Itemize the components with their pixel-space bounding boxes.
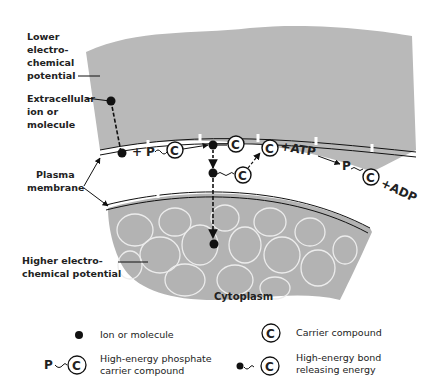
- svg-text:C: C: [366, 171, 375, 185]
- label-higher-potential: Higher electro- chemical potential: [22, 255, 121, 279]
- svg-text:High-energy bond: High-energy bond: [296, 352, 381, 363]
- high-energy-bond-tilde: [155, 150, 167, 154]
- legend-ion-icon: [75, 331, 83, 339]
- label-lower-potential: Lower electro- chemical potential: [27, 31, 78, 81]
- label-cytoplasm: Cytoplasm: [214, 291, 273, 302]
- svg-text:releasing energy: releasing energy: [296, 364, 376, 375]
- plus-adp: +ADP: [379, 176, 420, 205]
- legend: Ion or molecule C Carrier compound P C H…: [44, 324, 382, 376]
- high-energy-bond-release: [217, 173, 234, 176]
- plus-sign: +: [132, 145, 142, 159]
- legend-bond-icon: [237, 363, 244, 370]
- arrow-to-complex: [183, 145, 208, 149]
- legend-phosphate-icon: P: [44, 358, 53, 372]
- label-plasma-membrane: Plasma membrane: [27, 169, 84, 193]
- svg-text:C: C: [170, 144, 179, 158]
- cytoplasm-region: [108, 194, 372, 300]
- svg-text:carrier compound: carrier compound: [100, 365, 184, 376]
- ion-complex: [209, 141, 218, 150]
- arrow-carrier-recycle: [248, 153, 260, 168]
- svg-text:C: C: [265, 142, 274, 156]
- diagram-root: Lower electro- chemical potential Extrac…: [0, 0, 443, 386]
- diagram-canvas: Lower electro- chemical potential Extrac…: [0, 0, 443, 386]
- svg-text:C: C: [266, 327, 275, 341]
- svg-text:Carrier compound: Carrier compound: [296, 327, 382, 338]
- ion-cytoplasm: [210, 240, 219, 249]
- ion-release: [209, 169, 218, 178]
- pointer-membrane-outer: [84, 158, 100, 186]
- svg-text:C: C: [72, 359, 81, 373]
- pointer-membrane-inner: [84, 188, 108, 206]
- svg-text:C: C: [238, 169, 247, 183]
- phosphate-label: P: [146, 145, 155, 159]
- svg-text:C: C: [231, 138, 240, 152]
- svg-text:C: C: [265, 360, 274, 374]
- svg-text:Ion or molecule: Ion or molecule: [100, 329, 174, 340]
- ion-at-membrane: [118, 149, 127, 158]
- svg-text:High-energy phosphate: High-energy phosphate: [100, 353, 212, 364]
- phosphate-label-2: P: [342, 159, 351, 173]
